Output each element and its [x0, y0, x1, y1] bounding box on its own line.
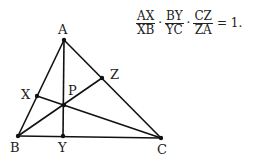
denominator: ZA — [195, 24, 212, 37]
ceva-diagram: ABCXYZP AX XB · BY YC · CZ ZA = 1. — [0, 0, 261, 160]
point-p — [62, 103, 66, 107]
multiply-dot: · — [187, 16, 191, 30]
segment-ay — [63, 40, 64, 136]
numerator: CZ — [193, 10, 213, 24]
point-a — [62, 38, 66, 42]
ceva-formula: AX XB · BY YC · CZ ZA = 1. — [136, 6, 242, 40]
point-y — [61, 134, 65, 138]
denominator: YC — [166, 24, 183, 37]
point-b — [16, 134, 20, 138]
segment-ca — [64, 40, 161, 138]
label-y: Y — [57, 140, 67, 155]
segment-bz — [18, 78, 102, 136]
label-p: P — [68, 83, 77, 98]
denominator: XB — [137, 24, 154, 37]
fraction-cz-za: CZ ZA — [193, 10, 213, 37]
fraction-ax-xb: AX XB — [136, 10, 155, 37]
numerator: BY — [165, 10, 184, 24]
equals-one: = 1. — [217, 16, 242, 30]
label-a: A — [57, 22, 68, 37]
label-b: B — [10, 140, 20, 155]
segment-bc — [18, 136, 161, 138]
point-x — [35, 94, 39, 98]
segment-cx — [37, 96, 161, 138]
fraction-by-yc: BY YC — [165, 10, 184, 37]
label-z: Z — [110, 67, 119, 82]
label-c: C — [157, 142, 167, 157]
point-c — [159, 136, 163, 140]
multiply-dot: · — [158, 16, 162, 30]
numerator: AX — [136, 10, 155, 24]
point-z — [100, 76, 104, 80]
label-x: X — [21, 87, 31, 102]
